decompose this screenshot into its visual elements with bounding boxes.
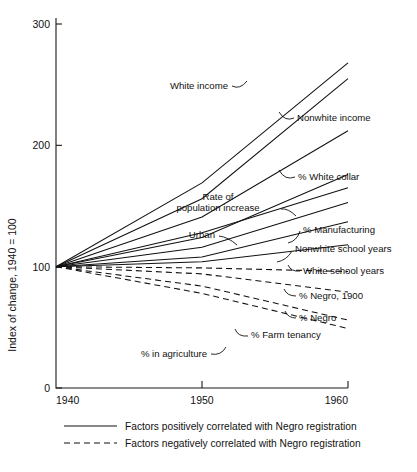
x-tick-label: 1960	[325, 394, 349, 406]
annotation-leader-line	[279, 170, 295, 178]
y-tick-label: 200	[32, 139, 50, 151]
y-axis-tick-labels: 0100200300	[32, 18, 50, 394]
chart-legend: Factors positively correlated with Negro…	[64, 421, 361, 449]
x-axis-ticks	[202, 381, 348, 388]
series-label: % Negro	[299, 312, 336, 323]
chart-figure: 0100200300 194019501960 Index of change,…	[0, 0, 417, 472]
annotation-leader-line	[285, 311, 296, 318]
series-label: Urban	[189, 229, 215, 240]
annotation-leader-line	[232, 81, 247, 87]
annotation-leader-line	[211, 347, 226, 354]
y-tick-label: 300	[32, 18, 50, 30]
chart-svg: 0100200300 194019501960 Index of change,…	[0, 0, 417, 472]
annotation-leader-line	[288, 231, 300, 243]
series-label: % Farm tenancy	[251, 329, 321, 340]
series-label: % Manufacturing	[303, 224, 375, 235]
legend-label: Factors negatively correlated with Negro…	[125, 438, 361, 449]
series-label: % White collar	[298, 171, 360, 182]
series-label: Rate of	[203, 191, 234, 202]
y-tick-label: 0	[44, 382, 50, 394]
x-axis-tick-labels: 194019501960	[56, 394, 348, 406]
series-label: population increase	[176, 202, 259, 213]
series-label: Nonwhite income	[297, 112, 371, 123]
y-axis-title: Index of change, 1940 = 100	[6, 218, 18, 352]
series-label: White income	[170, 80, 228, 91]
x-tick-label: 1950	[190, 394, 214, 406]
y-tick-label: 100	[32, 261, 50, 273]
series-label: % in agriculture	[141, 348, 207, 359]
series-annotations: White incomeNonwhite income% White colla…	[141, 80, 392, 359]
annotation-leader-line	[284, 289, 296, 296]
annotation-leader-line	[281, 209, 296, 216]
series-label: White school years	[303, 265, 384, 276]
legend-label: Factors positively correlated with Negro…	[125, 421, 357, 432]
y-axis-ticks	[56, 24, 62, 388]
annotation-leader-line	[235, 329, 248, 336]
series-label: Nonwhite school years	[295, 243, 392, 254]
x-tick-label: 1940	[56, 394, 80, 406]
series-label: % Negro, 1900	[299, 290, 363, 301]
